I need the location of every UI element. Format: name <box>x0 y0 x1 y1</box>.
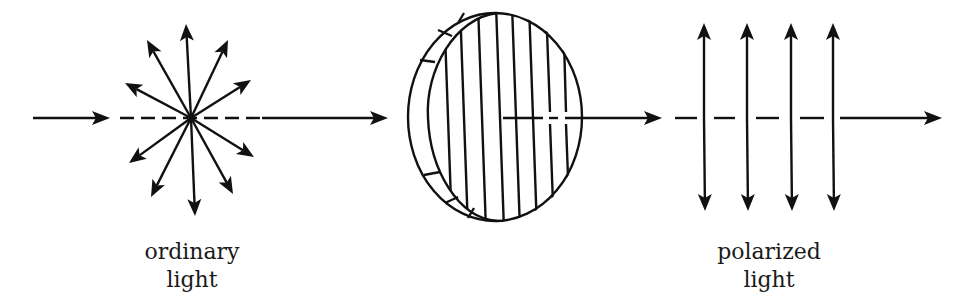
polarized-light-label-line1: polarized <box>717 239 821 264</box>
polarized-light-label-line2: light <box>743 267 794 292</box>
ordinary-light-label-line1: ordinary <box>144 239 240 264</box>
polarization-diagram: ordinary light polarized light <box>0 0 963 304</box>
outgoing-beam-arrow <box>840 111 942 125</box>
incoming-beam-arrow <box>33 111 110 125</box>
beam-to-filter-arrow <box>262 111 388 125</box>
ordinary-light-label-line2: light <box>166 267 217 292</box>
ordinary-light-burst-icon <box>125 24 254 216</box>
